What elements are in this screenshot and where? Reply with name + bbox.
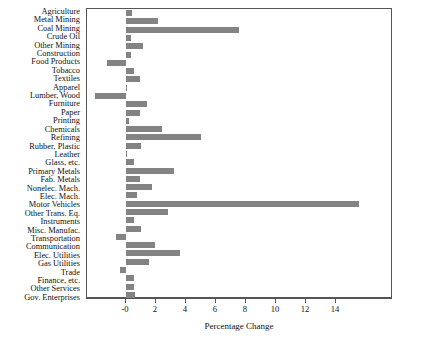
x-tick-label: 8 [230,304,260,314]
bar [126,134,201,140]
bar-row [87,17,391,25]
category-axis-labels: AgricultureMetal MiningCoal MiningCrude … [0,8,83,298]
bar [126,250,180,256]
bar-row [87,166,391,174]
bar-row [87,26,391,34]
x-tick-label: 10 [260,304,290,314]
plot-area [86,8,392,298]
bar [126,192,137,198]
x-tick [305,298,306,303]
bar-row [87,249,391,257]
bar [126,68,134,74]
x-tick [215,298,216,303]
bar [126,159,134,165]
bar-row [87,142,391,150]
x-axis-line [86,298,392,299]
bar-row [87,50,391,58]
bar-row [87,34,391,42]
bar [116,234,127,240]
x-tick [335,298,336,303]
bar-row [87,100,391,108]
bar [126,143,141,149]
bar-row [87,274,391,282]
category-label: Gov. Enterprises [0,294,83,302]
bar-chart: AgricultureMetal MiningCoal MiningCrude … [0,0,421,343]
bars-container [87,9,391,297]
bar [126,275,134,281]
x-tick-label: 4 [170,304,200,314]
bar-row [87,42,391,50]
bar-row [87,108,391,116]
bar-row [87,224,391,232]
bar [126,110,140,116]
x-tick-label: 2 [140,304,170,314]
bar [126,176,140,182]
bar-row [87,92,391,100]
bar [126,52,131,58]
bar [126,76,140,82]
bar [126,27,239,33]
bar-row [87,67,391,75]
x-tick [125,298,126,303]
bar [126,217,134,223]
bar-row [87,84,391,92]
bar [126,284,134,290]
bar-row [87,216,391,224]
bar-row [87,117,391,125]
bar [120,267,126,273]
bar-row [87,266,391,274]
x-tick [245,298,246,303]
x-tick [185,298,186,303]
bar [126,18,158,24]
bar [126,209,168,215]
bar-row [87,241,391,249]
bar-row [87,75,391,83]
x-tick [275,298,276,303]
x-tick-label: -0 [110,304,140,314]
bar-row [87,150,391,158]
bar-row [87,200,391,208]
bar-row [87,59,391,67]
bar [126,126,162,132]
bar [126,226,141,232]
bar [126,43,143,49]
bar [107,60,127,66]
bar-row [87,233,391,241]
bar [126,35,131,41]
bar-row [87,158,391,166]
bar [126,184,152,190]
x-tick-label: 6 [200,304,230,314]
bar-row [87,125,391,133]
bar-row [87,208,391,216]
bar [126,101,147,107]
bar-row [87,175,391,183]
bar [95,93,127,99]
bar [126,242,155,248]
x-axis-title: Percentage Change [86,321,392,331]
bar [126,259,149,265]
x-tick-label: 12 [290,304,320,314]
bar-row [87,191,391,199]
bar [126,151,127,157]
x-tick [155,298,156,303]
bar-row [87,133,391,141]
x-tick-label: 14 [320,304,350,314]
bar [126,10,132,16]
bar [126,168,174,174]
bar-row [87,258,391,266]
bar [126,292,135,298]
bar-row [87,282,391,290]
bar [126,201,359,207]
bar [126,118,129,124]
bar [126,85,127,91]
bar-row [87,9,391,17]
bar-row [87,183,391,191]
